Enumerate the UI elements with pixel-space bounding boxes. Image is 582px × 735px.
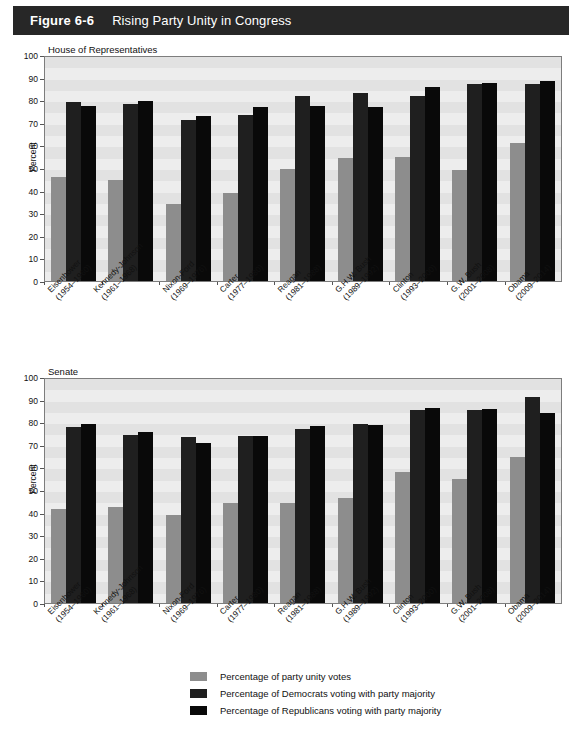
y-tick-label: 70 [29,119,44,129]
bar-unity [510,457,525,603]
y-tick-label: 80 [29,418,44,428]
bar-rep [81,106,96,281]
bar-unity [452,479,467,603]
bar-rep [482,83,497,281]
x-label-cell: Obama(2009–2014) [505,286,563,356]
bar-group [160,379,217,603]
y-tick-label: 50 [29,164,44,174]
bar-unity [280,169,295,281]
bar-unity [51,177,66,281]
bar-group [45,379,102,603]
bars-layer-senate [45,379,561,603]
legend-item: Percentage of Democrats voting with part… [190,685,570,702]
bar-rep [310,106,325,281]
bar-rep [540,413,555,603]
bar-group [446,379,503,603]
plot-wrap-senate: 1009080706050403020100 [44,378,562,604]
x-label-cell: Nixon-Ford(1969–1976) [159,286,217,356]
legend-swatch-dem [190,689,207,698]
bar-group [332,57,389,281]
y-tick-label: 100 [24,373,44,383]
y-tick-label: 0 [33,277,44,287]
bar-unity [395,157,410,281]
x-label-cell: Reagan(1981–1988) [274,286,332,356]
bar-rep [368,107,383,281]
x-label-cell: G.H.W. Bush(1989–1992) [332,286,390,356]
bar-group [217,379,274,603]
y-tick-label: 80 [29,96,44,106]
panel-title-senate: Senate [48,366,78,377]
y-tick-label: 40 [29,509,44,519]
bar-dem [467,410,482,603]
bar-group [446,57,503,281]
y-tick-label: 50 [29,486,44,496]
bar-rep [368,425,383,603]
bar-dem [295,96,310,281]
bar-rep [482,409,497,603]
bar-dem [525,84,540,281]
bar-group [217,57,274,281]
x-label-cell: Kennedy-Johnson(1961–1968) [102,286,160,356]
legend-item: Percentage of Republicans voting with pa… [190,702,570,719]
bar-group [389,379,446,603]
bar-rep [81,424,96,603]
y-tick-label: 40 [29,187,44,197]
plot-area-senate [44,378,562,604]
bar-unity [223,503,238,603]
bar-group [332,379,389,603]
bar-rep [310,426,325,603]
bar-rep [196,443,211,603]
x-axis-labels-house: Eisenhower(1954–1960)Kennedy-Johnson(196… [44,286,562,356]
bar-unity [280,503,295,603]
y-tick-label: 90 [29,74,44,84]
x-label-cell: Kennedy-Johnson(1961–1968) [102,608,160,678]
y-tick-label: 60 [29,141,44,151]
x-label-cell: G.W. Bush(2001–2008) [447,286,505,356]
figure-header-bar: Figure 6-6 Rising Party Unity in Congres… [13,6,569,35]
bar-rep [196,116,211,281]
legend-label: Percentage of Republicans voting with pa… [220,705,441,716]
y-tick-label: 10 [29,576,44,586]
bar-group [160,57,217,281]
bar-dem [353,93,368,281]
x-label-cell: Carter(1977–1980) [217,286,275,356]
x-label-cell: Eisenhower(1954–1960) [44,286,102,356]
legend-swatch-rep [190,706,207,715]
bar-rep [425,408,440,603]
x-label-cell: Eisenhower(1954–1960) [44,608,102,678]
bar-dem [525,397,540,603]
bar-unity [166,515,181,603]
y-axis-label-house: Percent [28,122,38,192]
bar-group [504,57,561,281]
bar-unity [51,509,66,603]
bar-unity [452,170,467,281]
bar-unity [395,472,410,603]
figure-number: Figure 6-6 [30,13,94,28]
y-axis-label-senate: Percent [28,444,38,514]
legend-item: Percentage of party unity votes [190,668,570,685]
bar-unity [223,193,238,281]
bar-group [504,379,561,603]
bar-rep [253,107,268,281]
y-tick-label: 90 [29,396,44,406]
y-tick-label: 20 [29,232,44,242]
legend-label: Percentage of Democrats voting with part… [220,688,435,699]
y-tick-label: 30 [29,531,44,541]
x-label-cell: Clinton(1993–2000) [389,286,447,356]
bar-rep [253,436,268,603]
y-tick-label: 60 [29,463,44,473]
y-tick-label: 100 [24,51,44,61]
bar-dem [410,410,425,603]
bar-unity [338,158,353,281]
bar-unity [510,143,525,281]
y-tick-label: 30 [29,209,44,219]
plot-wrap-house: 1009080706050403020100 [44,56,562,282]
bar-dem [467,84,482,281]
y-tick-label: 20 [29,554,44,564]
y-tick-label: 0 [33,599,44,609]
bar-group [274,57,331,281]
bar-rep [425,87,440,281]
figure-title: Rising Party Unity in Congress [112,13,291,28]
y-tick-label: 70 [29,441,44,451]
bar-unity [338,498,353,603]
